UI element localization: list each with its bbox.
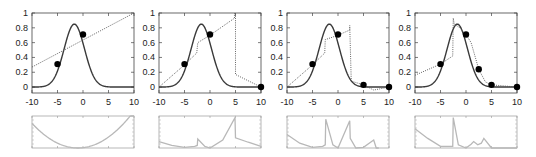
x-tick-label: 10 bbox=[256, 97, 266, 107]
sample-point bbox=[335, 31, 341, 37]
y-tick-label: 0.8 bbox=[398, 23, 411, 33]
panel-2: -10-5051000.20.40.60.81 bbox=[142, 8, 266, 107]
error-panel-2 bbox=[159, 116, 261, 148]
y-tick-label: 0.2 bbox=[15, 67, 28, 77]
y-tick-label: 0.4 bbox=[398, 52, 411, 62]
y-tick-label: 1 bbox=[150, 8, 155, 18]
y-tick-label: 0 bbox=[278, 82, 283, 92]
x-tick-label: 10 bbox=[512, 97, 522, 107]
x-tick-label: -10 bbox=[25, 97, 38, 107]
plot-frame bbox=[159, 13, 261, 93]
panel-3: -10-5051000.20.40.60.81 bbox=[270, 8, 394, 107]
x-tick-label: 0 bbox=[80, 97, 85, 107]
sample-point bbox=[488, 82, 494, 88]
y-tick-label: 1 bbox=[23, 8, 28, 18]
sample-point bbox=[80, 31, 86, 37]
sample-point bbox=[54, 61, 60, 67]
y-tick-label: 0 bbox=[406, 82, 411, 92]
panel-4: -10-5051000.20.40.60.81 bbox=[398, 8, 522, 107]
x-tick-label: -5 bbox=[436, 97, 444, 107]
x-tick-label: 5 bbox=[361, 97, 366, 107]
x-tick-label: 5 bbox=[489, 97, 494, 107]
x-tick-label: 5 bbox=[233, 97, 238, 107]
approximation-curve bbox=[159, 13, 261, 87]
x-tick-label: 0 bbox=[207, 97, 212, 107]
y-tick-label: 0.6 bbox=[142, 38, 155, 48]
x-tick-label: 0 bbox=[335, 97, 340, 107]
y-tick-label: 0 bbox=[23, 82, 28, 92]
error-panel-3 bbox=[287, 116, 389, 148]
y-tick-label: 0.2 bbox=[398, 67, 411, 77]
y-tick-label: 0 bbox=[150, 82, 155, 92]
x-tick-label: -10 bbox=[280, 97, 293, 107]
error-panel-4 bbox=[415, 116, 517, 148]
error-frame bbox=[159, 116, 261, 148]
y-tick-label: 0.6 bbox=[15, 38, 28, 48]
approximation-curve bbox=[415, 18, 517, 87]
y-tick-label: 0.6 bbox=[270, 38, 283, 48]
y-tick-label: 0.2 bbox=[270, 67, 283, 77]
plot-frame bbox=[287, 13, 389, 93]
sample-point bbox=[207, 31, 213, 37]
sample-point bbox=[181, 61, 187, 67]
y-tick-label: 0.8 bbox=[270, 23, 283, 33]
y-tick-label: 0.2 bbox=[142, 67, 155, 77]
y-tick-label: 1 bbox=[406, 8, 411, 18]
error-curve bbox=[159, 118, 261, 148]
y-tick-label: 0.8 bbox=[15, 23, 28, 33]
x-tick-label: 10 bbox=[129, 97, 139, 107]
sample-point bbox=[476, 66, 482, 72]
y-tick-label: 0.8 bbox=[142, 23, 155, 33]
error-curve bbox=[32, 116, 134, 148]
plot-frame bbox=[415, 13, 517, 93]
sample-point bbox=[386, 84, 392, 90]
x-tick-label: 10 bbox=[384, 97, 394, 107]
y-tick-label: 0.4 bbox=[270, 52, 283, 62]
x-tick-label: -10 bbox=[408, 97, 421, 107]
sample-point bbox=[360, 82, 366, 88]
y-tick-label: 0.4 bbox=[142, 52, 155, 62]
x-tick-label: -5 bbox=[180, 97, 188, 107]
plot-frame bbox=[32, 13, 134, 93]
error-frame bbox=[287, 116, 389, 148]
x-tick-label: 5 bbox=[106, 97, 111, 107]
error-panel-1 bbox=[32, 116, 134, 148]
y-tick-label: 0.6 bbox=[398, 38, 411, 48]
error-curve bbox=[287, 119, 379, 148]
y-tick-label: 1 bbox=[278, 8, 283, 18]
error-frame bbox=[415, 116, 517, 148]
sample-point bbox=[514, 84, 520, 90]
figure: -10-5051000.20.40.60.81-10-5051000.20.40… bbox=[0, 0, 536, 157]
sample-point bbox=[258, 84, 264, 90]
error-frame bbox=[32, 116, 134, 148]
panel-1: -10-5051000.20.40.60.81 bbox=[15, 8, 139, 107]
sample-point bbox=[309, 61, 315, 67]
x-tick-label: 0 bbox=[463, 97, 468, 107]
y-tick-label: 0.4 bbox=[15, 52, 28, 62]
x-tick-label: -10 bbox=[152, 97, 165, 107]
x-tick-label: -5 bbox=[308, 97, 316, 107]
x-tick-label: -5 bbox=[53, 97, 61, 107]
sample-point bbox=[437, 61, 443, 67]
approximation-curve bbox=[32, 13, 134, 67]
sample-point bbox=[463, 31, 469, 37]
error-curve bbox=[415, 118, 517, 148]
